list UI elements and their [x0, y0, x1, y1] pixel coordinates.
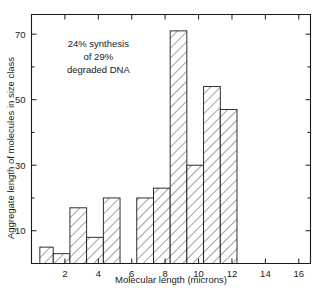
bar [40, 247, 53, 263]
x-axis-title: Molecular length (microns) [115, 274, 227, 285]
bar [53, 254, 70, 264]
annotation-line: of 29% [84, 51, 114, 62]
x-tick-label: 16 [294, 268, 305, 279]
y-tick-label: 10 [15, 225, 26, 236]
x-tick-label: 2 [62, 268, 67, 279]
x-tick-label: 12 [227, 268, 238, 279]
y-tick-label: 70 [15, 29, 26, 40]
figure-container: 246810121416 10305070 Molecular length (… [0, 0, 332, 304]
x-tick-label: 4 [96, 268, 101, 279]
bar [220, 110, 237, 264]
bar [137, 198, 154, 264]
bar [170, 31, 187, 264]
y-tick-label: 30 [15, 160, 26, 171]
bar [70, 208, 87, 264]
x-tick-label: 14 [260, 268, 271, 279]
bar [187, 165, 204, 263]
bar [204, 87, 221, 264]
annotation-line: degraded DNA [67, 64, 131, 75]
bar [153, 188, 170, 263]
bar [87, 237, 104, 263]
annotation-line: 24% synthesis [68, 38, 130, 49]
bar [103, 198, 120, 264]
y-axis-title: Aggregate length of molecules in size cl… [5, 57, 16, 239]
y-tick-label: 50 [15, 94, 26, 105]
histogram-chart: 246810121416 10305070 Molecular length (… [0, 0, 332, 304]
